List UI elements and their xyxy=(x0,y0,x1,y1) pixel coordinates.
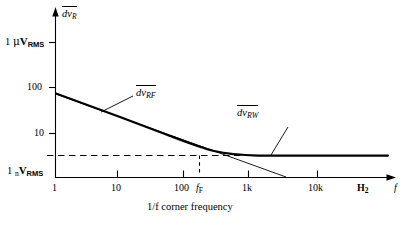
micro-symbol: μ xyxy=(13,35,20,47)
x-tick-label-10k: 10k xyxy=(308,183,323,193)
dvrf-leader-line xyxy=(101,96,133,112)
y-tick-1nv-volt: V xyxy=(19,164,27,176)
y-axis xyxy=(52,7,58,178)
dvrf-sub: RF xyxy=(146,91,156,100)
x-tick-label-100: 100 xyxy=(174,183,189,193)
x-unit-main: H xyxy=(357,182,365,193)
dvrw-main: dv xyxy=(237,107,247,118)
x-axis-variable-label: f xyxy=(394,183,397,193)
y-tick-label-10: 10 xyxy=(34,128,44,138)
x-tick-label-corner-frequency: fF xyxy=(196,183,203,193)
total-noise-curve xyxy=(56,94,388,156)
nano-symbol: n xyxy=(15,169,19,178)
y-axis-ticks xyxy=(49,43,56,134)
x-tick-label-10: 10 xyxy=(111,183,121,193)
x-axis-caption: 1/f corner frequency xyxy=(147,202,233,213)
curve-label-dvrf: dvRF xyxy=(136,85,156,98)
plot-canvas xyxy=(0,0,409,225)
y-axis-title-main: dv xyxy=(62,8,72,19)
y-axis-title: dvR xyxy=(62,6,77,19)
y-tick-label-1uv: 1 μVRMS xyxy=(5,36,44,48)
dvrw-sub: RW xyxy=(247,111,258,120)
curve-label-dvrw: dvRW xyxy=(237,105,258,118)
y-tick-1nv-sub: RMS xyxy=(27,169,44,178)
x-axis-ticks xyxy=(118,171,318,178)
x-unit-sub: 2 xyxy=(365,186,369,195)
corner-freq-sub: F xyxy=(199,186,203,195)
x-axis xyxy=(56,174,397,180)
y-axis-title-sub: R xyxy=(72,12,77,21)
y-tick-label-100: 100 xyxy=(27,82,42,92)
dvrf-main: dv xyxy=(136,87,146,98)
y-tick-label-1nv: 1 nVRMS xyxy=(7,165,43,177)
y-tick-1uv-sub: RMS xyxy=(28,40,45,49)
noise-spectral-density-figure: dvR 1 μVRMS 100 10 1 nVRMS 1 10 100 fF 1… xyxy=(0,0,409,225)
y-tick-1uv-volt: V xyxy=(20,35,28,47)
x-tick-label-1: 1 xyxy=(52,183,57,193)
dvrw-leader-line xyxy=(271,127,288,155)
x-axis-unit-label: H2 xyxy=(357,183,369,193)
x-tick-label-1k: 1k xyxy=(242,183,252,193)
